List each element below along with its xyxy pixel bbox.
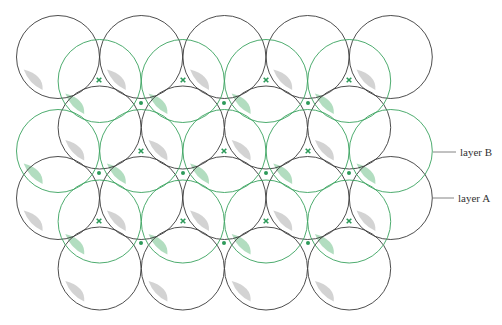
cross-marker-icon	[97, 219, 102, 224]
dot-marker-icon	[139, 241, 143, 245]
layer-a-sphere-shading	[24, 210, 43, 231]
layer-b-sphere-shading	[149, 234, 168, 255]
dot-marker-icon	[306, 241, 310, 245]
dot-marker-icon	[306, 101, 310, 105]
layer-a-sphere-shading	[149, 281, 168, 302]
cross-marker-icon	[181, 219, 186, 224]
layer-a-sphere-shading	[65, 281, 84, 302]
dot-marker-icon	[222, 241, 226, 245]
cross-marker-icon	[222, 149, 227, 154]
layer-a-sphere	[58, 86, 141, 169]
cross-marker-icon	[264, 78, 269, 83]
layer-a-sphere-shading	[315, 281, 334, 302]
layer-a-sphere-shading	[24, 69, 43, 90]
layer-a-sphere	[17, 157, 100, 240]
cross-marker-icon	[306, 149, 311, 154]
layer-a-sphere	[225, 86, 308, 169]
layer-b-sphere	[17, 110, 100, 193]
layer-a-label: layer A	[458, 192, 490, 204]
layer-a-spheres	[17, 16, 433, 311]
layer-b-sphere-shading	[315, 234, 334, 255]
layer-a-sphere-shading	[232, 281, 251, 302]
layer-a-sphere	[183, 157, 266, 240]
layer-a-sphere	[58, 227, 141, 310]
cross-marker-icon	[181, 78, 186, 83]
cross-marker-icon	[347, 78, 352, 83]
layer-b-sphere	[349, 110, 432, 193]
layer-a-sphere	[141, 86, 224, 169]
close-packing-diagram: layer B layer A	[0, 0, 502, 325]
layer-a-sphere	[349, 157, 432, 240]
layer-b-sphere-shading	[232, 234, 251, 255]
dot-marker-icon	[264, 171, 268, 175]
dot-marker-icon	[97, 171, 101, 175]
layer-b-sphere-shading	[24, 163, 43, 184]
layer-a-sphere	[225, 227, 308, 310]
cross-marker-icon	[139, 149, 144, 154]
dot-marker-icon	[347, 171, 351, 175]
layer-a-sphere	[100, 157, 183, 240]
layer-b-label: layer B	[460, 146, 492, 158]
cross-marker-icon	[97, 78, 102, 83]
layer-a-sphere	[141, 227, 224, 310]
layer-a-sphere	[308, 227, 391, 310]
cross-marker-icon	[264, 219, 269, 224]
cross-marker-icon	[347, 219, 352, 224]
dot-marker-icon	[139, 101, 143, 105]
layer-labels: layer B layer A	[433, 146, 492, 204]
layer-b-sphere-shading	[65, 234, 84, 255]
layer-a-sphere	[266, 157, 349, 240]
dot-marker-icon	[222, 101, 226, 105]
dot-marker-icon	[181, 171, 185, 175]
layer-a-sphere	[308, 86, 391, 169]
